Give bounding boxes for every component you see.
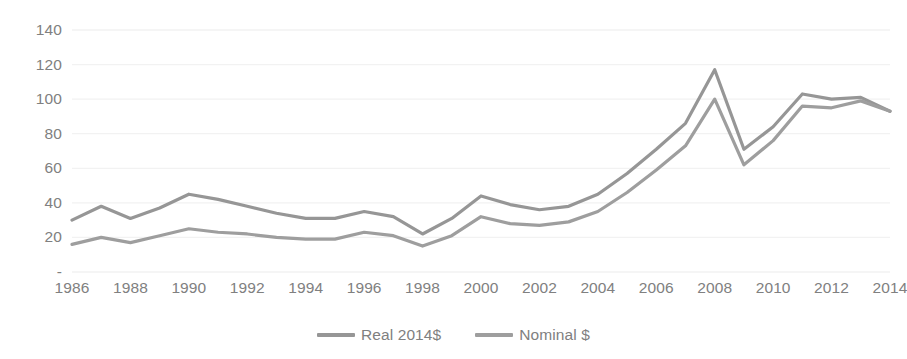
x-axis-tick-label: 2010 [756,280,791,296]
line-chart: 14012010080604020- 198619881990199219941… [0,0,907,359]
x-axis-tick-label: 1992 [230,280,265,296]
x-axis: 1986198819901992199419961998200020022004… [72,280,890,304]
y-axis-tick-label: 80 [0,126,62,142]
x-axis-tick-label: 1990 [171,280,206,296]
legend-line-swatch-icon [475,333,513,337]
x-axis-tick-label: 1996 [347,280,382,296]
x-axis-tick-label: 1998 [405,280,440,296]
legend-item-label: Real 2014$ [361,327,441,343]
legend-line-swatch-icon [317,333,355,337]
y-axis-tick-label: 100 [0,91,62,107]
legend-item[interactable]: Nominal $ [475,327,590,343]
x-axis-tick-label: 2004 [580,280,615,296]
chart-legend: Real 2014$Nominal $ [0,327,907,343]
y-axis-tick-label: 40 [0,195,62,211]
x-axis-tick-label: 2012 [814,280,849,296]
series-line-2 [72,99,890,246]
x-axis-tick-label: 2008 [697,280,732,296]
y-axis-tick-label: 20 [0,230,62,246]
x-axis-tick-label: 1986 [55,280,90,296]
legend-item[interactable]: Real 2014$ [317,327,441,343]
series-line-1 [72,70,890,234]
x-axis-tick-label: 2014 [873,280,907,296]
legend-item-label: Nominal $ [519,327,590,343]
series-lines [72,30,890,272]
x-axis-tick-label: 1994 [288,280,323,296]
x-axis-tick-label: 2006 [639,280,674,296]
y-axis-tick-label: 60 [0,161,62,177]
x-axis-tick-label: 1988 [113,280,148,296]
y-axis-tick-label: - [0,264,62,280]
x-axis-tick-label: 2000 [464,280,499,296]
y-axis-tick-label: 140 [0,22,62,38]
x-axis-tick-label: 2002 [522,280,557,296]
y-axis-tick-label: 120 [0,57,62,73]
y-axis: 14012010080604020- [0,30,62,272]
plot-area [72,30,890,272]
